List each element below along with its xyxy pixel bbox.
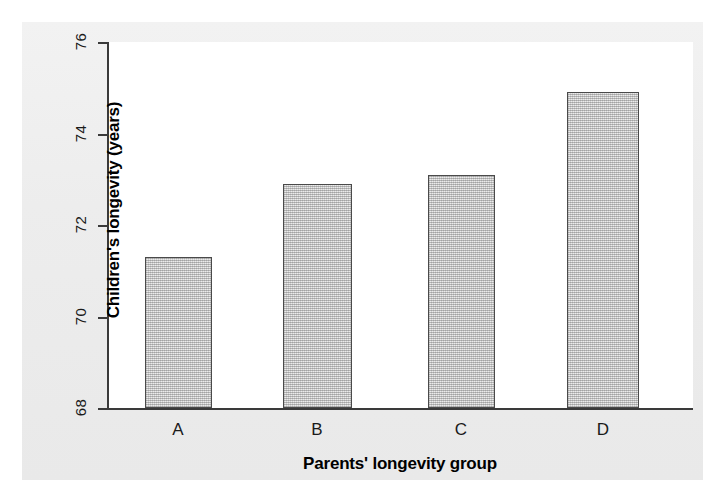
bar-d[interactable] — [567, 92, 639, 408]
category-label-b: B — [272, 420, 362, 440]
y-tick-mark-68 — [98, 408, 108, 410]
y-axis-title: Children's longevity (years) — [104, 30, 124, 390]
x-axis-title: Parents' longevity group — [107, 454, 693, 474]
bar-a[interactable] — [145, 257, 212, 408]
y-tick-label-68: 68 — [72, 391, 89, 425]
y-tick-label-74: 74 — [72, 116, 89, 150]
bar-b[interactable] — [283, 184, 352, 408]
x-axis-line — [107, 408, 693, 410]
category-label-d: D — [558, 420, 648, 440]
category-label-a: A — [133, 420, 223, 440]
bar-c[interactable] — [428, 175, 495, 408]
y-tick-label-76: 76 — [72, 25, 89, 59]
y-tick-label-70: 70 — [72, 299, 89, 333]
figure-panel: 68 70 72 74 76 A B C D Children's longev… — [22, 22, 703, 480]
plot-area: 68 70 72 74 76 A B C D Children's longev… — [107, 42, 693, 408]
y-tick-label-72: 72 — [72, 208, 89, 242]
category-label-c: C — [416, 420, 506, 440]
